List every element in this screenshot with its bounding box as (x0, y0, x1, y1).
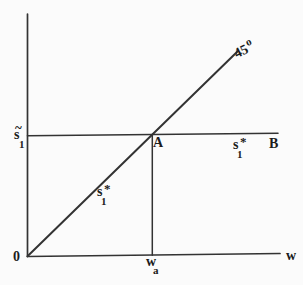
s1-star-region-subscript: 1 (237, 149, 243, 160)
origin-label: 0 (13, 250, 20, 264)
s1-star-line-label: s * 1 (96, 183, 114, 207)
s1-star-region-superscript: * (240, 135, 247, 148)
s1-star-line-subscript: 1 (101, 196, 107, 207)
point-a-label: A (153, 136, 163, 150)
point-b-label: B (269, 137, 278, 151)
s-tilde-1-label: ~ s 1 (13, 128, 35, 152)
s1-star-line-superscript: * (104, 182, 111, 195)
wa-label: w a (146, 255, 164, 277)
wa-subscript: a (153, 265, 159, 276)
w-axis-label: w (286, 249, 296, 263)
s1-star-region-label: s * 1 (232, 136, 250, 160)
diagram-lines (0, 0, 303, 285)
s-tilde-subscript: 1 (19, 139, 25, 150)
diagram-canvas: 45o ~ s 1 A s * 1 B s * 1 0 w a w (0, 0, 303, 285)
forty-five-degree-line (28, 51, 239, 256)
